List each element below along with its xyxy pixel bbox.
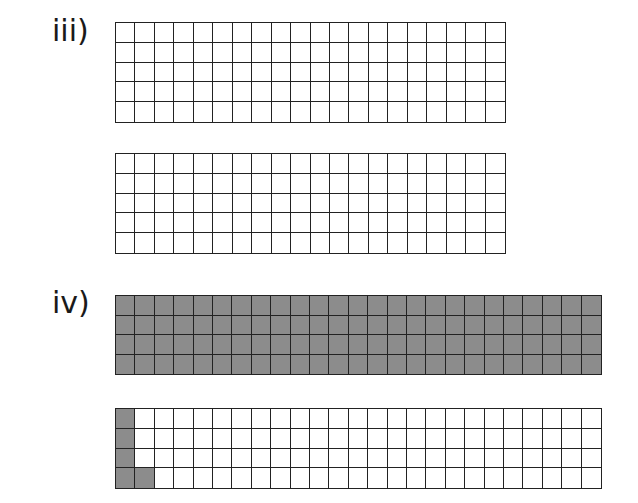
- grid-cell: [213, 23, 232, 43]
- grid-cell: [562, 449, 581, 469]
- grid-cell: [232, 296, 251, 316]
- grid-cell: [388, 194, 407, 214]
- grid-cell: [155, 449, 174, 469]
- grid-cell: [291, 233, 310, 253]
- grid-cell: [582, 409, 601, 429]
- grid-cell: [465, 335, 484, 355]
- grid-cell: [562, 429, 581, 449]
- grid-cell: [213, 63, 232, 83]
- grid-cell: [543, 409, 562, 429]
- grid-cell: [272, 63, 291, 83]
- grid-cell: [135, 43, 154, 63]
- grid-cell: [311, 154, 330, 174]
- grid-cell: [194, 468, 213, 488]
- grid-cell: [194, 102, 213, 122]
- grid-cell: [311, 174, 330, 194]
- grid-cell: [485, 468, 504, 488]
- grid-cell: [582, 468, 601, 488]
- grid-cell: [523, 355, 542, 375]
- grid-cell: [504, 316, 523, 336]
- grid-cell: [194, 43, 213, 63]
- grid-cell: [272, 23, 291, 43]
- grid-cell: [368, 449, 387, 469]
- grid-cell: [116, 102, 135, 122]
- grid-cell: [349, 194, 368, 214]
- grid-cell: [408, 82, 427, 102]
- grid-cell: [447, 102, 466, 122]
- grid-cell: [368, 429, 387, 449]
- grid-cell: [486, 102, 505, 122]
- grid-cell: [116, 213, 135, 233]
- grid-cell: [311, 213, 330, 233]
- grid-cell: [369, 82, 388, 102]
- grid-cell: [232, 335, 251, 355]
- grid-cell: [329, 409, 348, 429]
- grid-cell: [446, 296, 465, 316]
- grid-cell: [213, 82, 232, 102]
- grid-cell: [135, 23, 154, 43]
- grid-cell: [155, 23, 174, 43]
- grid-cell: [135, 316, 154, 336]
- grid-cell: [291, 154, 310, 174]
- grid-cell: [232, 409, 251, 429]
- grid-cell: [271, 316, 290, 336]
- grid-cell: [330, 43, 349, 63]
- grid-cell: [330, 154, 349, 174]
- grid-cell: [272, 102, 291, 122]
- grid-cell: [408, 102, 427, 122]
- grid-cell: [447, 63, 466, 83]
- section-label-iii: iii): [52, 16, 89, 46]
- grid-cell: [330, 102, 349, 122]
- grid-cell: [407, 335, 426, 355]
- grid-cell: [291, 429, 310, 449]
- grid-cell: [349, 102, 368, 122]
- grid-cell: [135, 82, 154, 102]
- grid-cell: [427, 174, 446, 194]
- grid-cell: [213, 449, 232, 469]
- grid-cell: [465, 449, 484, 469]
- grid-cell: [485, 429, 504, 449]
- grid-cell: [174, 468, 193, 488]
- grid-cell: [447, 213, 466, 233]
- grid-cell: [330, 233, 349, 253]
- grid-cell: [349, 449, 368, 469]
- grid-cell: [543, 335, 562, 355]
- grid-cell: [194, 409, 213, 429]
- grid-cell: [116, 449, 135, 469]
- grid-cell: [329, 355, 348, 375]
- grid-cell: [408, 213, 427, 233]
- grid-cell: [252, 233, 271, 253]
- grid-cell: [310, 296, 329, 316]
- grid-cell: [233, 213, 252, 233]
- grid-cell: [427, 213, 446, 233]
- grid-cell: [174, 63, 193, 83]
- grid-cell: [368, 296, 387, 316]
- grid-iv-bottom: [115, 408, 602, 489]
- grid-cell: [174, 23, 193, 43]
- grid-cell: [271, 409, 290, 429]
- grid-cell: [388, 102, 407, 122]
- grid-iv-top: [115, 295, 602, 375]
- grid-cell: [311, 233, 330, 253]
- grid-cell: [408, 194, 427, 214]
- grid-cell: [174, 43, 193, 63]
- grid-cell: [174, 355, 193, 375]
- grid-cell: [233, 43, 252, 63]
- grid-cell: [407, 468, 426, 488]
- grid-cell: [582, 355, 601, 375]
- grid-cell: [233, 174, 252, 194]
- grid-cell: [194, 174, 213, 194]
- grid-cell: [388, 296, 407, 316]
- grid-cell: [427, 154, 446, 174]
- grid-cell: [291, 355, 310, 375]
- grid-cell: [116, 82, 135, 102]
- grid-cell: [543, 296, 562, 316]
- grid-cell: [155, 213, 174, 233]
- grid-cell: [408, 233, 427, 253]
- grid-cell: [446, 429, 465, 449]
- grid-cell: [486, 43, 505, 63]
- grid-cell: [135, 468, 154, 488]
- grid-cell: [427, 23, 446, 43]
- grid-cell: [523, 468, 542, 488]
- grid-cell: [311, 43, 330, 63]
